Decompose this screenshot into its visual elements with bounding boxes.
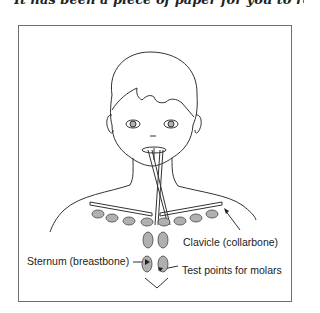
lower-v — [145, 278, 168, 288]
clavicle-label: Clavicle (collarbone) — [183, 236, 278, 248]
point — [206, 210, 218, 218]
clavicle-arrowhead — [224, 208, 229, 214]
sternum-point — [143, 232, 153, 248]
clavicle-arrow — [225, 210, 240, 230]
point — [174, 217, 186, 225]
point — [141, 218, 153, 226]
test-points-label: Test points for molars — [182, 264, 282, 276]
molar-point — [142, 256, 152, 272]
point — [158, 218, 170, 226]
neck-right — [172, 158, 178, 186]
hair-line — [112, 88, 194, 117]
point — [190, 214, 202, 222]
point — [92, 210, 104, 218]
neck-left — [130, 158, 133, 185]
point — [123, 217, 135, 225]
shoulder-left — [50, 185, 130, 232]
point — [106, 214, 118, 222]
sternum-label: Sternum (breastbone) — [27, 255, 129, 267]
sternum-point — [158, 232, 168, 248]
